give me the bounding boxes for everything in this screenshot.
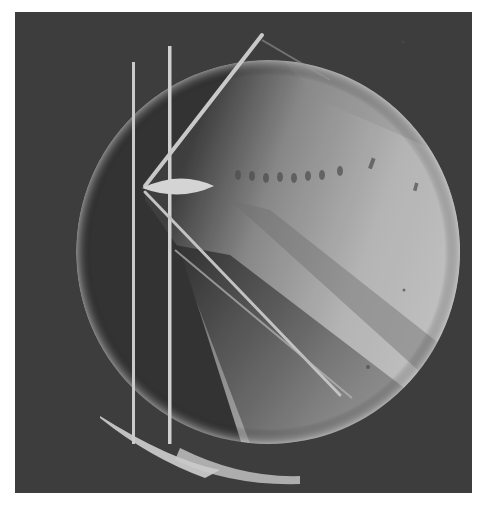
schlieren-photograph: [0, 0, 482, 505]
